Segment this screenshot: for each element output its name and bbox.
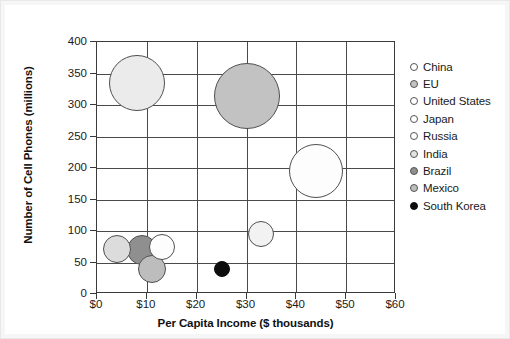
legend-item-label: Japan [423, 113, 454, 125]
legend-marker-icon [410, 97, 418, 105]
legend-marker-icon [410, 132, 418, 140]
y-tick-label: 200 [47, 161, 87, 173]
legend-marker-icon [410, 202, 418, 210]
legend-item-eu[interactable]: EU [410, 75, 506, 92]
legend-marker-icon [410, 150, 418, 158]
legend-item-label: Russia [423, 130, 458, 142]
plot-area [96, 41, 395, 293]
x-tick-label: $30 [224, 298, 268, 310]
x-tick-mark [295, 293, 296, 299]
legend-marker-icon [410, 63, 418, 71]
legend-item-label: United States [423, 95, 491, 107]
legend-item-united-states[interactable]: United States [410, 93, 506, 110]
bubble-eu [214, 63, 280, 129]
bubble-china [109, 55, 165, 111]
legend-item-russia[interactable]: Russia [410, 128, 506, 145]
legend-item-label: EU [423, 78, 439, 90]
gridline-vertical [197, 42, 198, 292]
x-tick-mark [196, 293, 197, 299]
legend-item-label: South Korea [423, 200, 486, 212]
bubble-united-states [289, 144, 343, 198]
x-tick-label: $10 [124, 298, 168, 310]
legend-item-label: China [423, 61, 453, 73]
gridline-horizontal [97, 137, 394, 138]
legend-item-brazil[interactable]: Brazil [410, 162, 506, 179]
legend-item-south-korea[interactable]: South Korea [410, 197, 506, 214]
bubble-south-korea [214, 261, 230, 277]
legend-item-india[interactable]: India [410, 145, 506, 162]
y-tick-label: 400 [47, 35, 87, 47]
legend-item-label: Brazil [423, 165, 451, 177]
bubble-chart-figure: Number of Cell Phones (millions) Per Cap… [0, 0, 510, 339]
gridline-horizontal [97, 168, 394, 169]
gridline-horizontal [97, 231, 394, 232]
x-axis-title: Per Capita Income ($ thousands) [96, 317, 395, 329]
y-axis-title: Number of Cell Phones (millions) [15, 25, 41, 285]
x-tick-label: $20 [174, 298, 218, 310]
x-tick-label: $50 [323, 298, 367, 310]
y-tick-label: 100 [47, 224, 87, 236]
chart-legend: ChinaEUUnited StatesJapanRussiaIndiaBraz… [410, 58, 506, 215]
gridline-horizontal [97, 200, 394, 201]
legend-item-label: India [423, 148, 447, 160]
legend-item-label: Mexico [423, 182, 459, 194]
x-tick-mark [345, 293, 346, 299]
gridline-vertical [346, 42, 347, 292]
y-tick-label: 250 [47, 130, 87, 142]
x-tick-mark [146, 293, 147, 299]
bubble-japan [248, 221, 274, 247]
legend-marker-icon [410, 80, 418, 88]
bubble-india [103, 235, 131, 263]
y-tick-label: 150 [47, 193, 87, 205]
legend-marker-icon [410, 167, 418, 175]
y-tick-label: 50 [47, 256, 87, 268]
x-tick-label: $40 [273, 298, 317, 310]
legend-marker-icon [410, 115, 418, 123]
legend-item-mexico[interactable]: Mexico [410, 180, 506, 197]
x-tick-mark [395, 293, 396, 299]
y-tick-label: 300 [47, 98, 87, 110]
y-tick-label: 350 [47, 67, 87, 79]
legend-item-china[interactable]: China [410, 58, 506, 75]
bubble-russia [149, 234, 175, 260]
legend-marker-icon [410, 184, 418, 192]
x-tick-mark [96, 293, 97, 299]
x-tick-label: $60 [373, 298, 417, 310]
x-tick-mark [246, 293, 247, 299]
legend-item-japan[interactable]: Japan [410, 110, 506, 127]
x-tick-label: $0 [74, 298, 118, 310]
